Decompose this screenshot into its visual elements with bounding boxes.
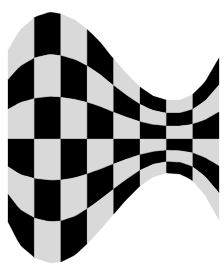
checker-cell [34,12,60,58]
checker-cell [34,218,60,263]
checker-cell [34,54,60,98]
checker-cell [34,97,60,139]
checker-cell [61,139,87,180]
warped-checkerboard [0,0,224,275]
checker-cell [166,94,192,113]
checker-cell [34,178,60,221]
checkerboard-cells [8,12,219,263]
checker-cell [61,97,87,139]
checker-cell [166,124,192,139]
checker-cell [34,139,60,180]
